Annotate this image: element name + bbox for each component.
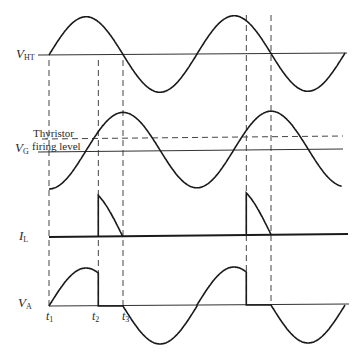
firing-level-label-1: Thyristor (33, 127, 74, 139)
il-pulse-1 (98, 195, 123, 237)
vg-label: VG (15, 140, 29, 156)
time-marker-lines (49, 15, 271, 310)
va-label: VA (18, 295, 32, 311)
il-pulse-2 (246, 193, 271, 235)
vht-label: VHT (16, 46, 35, 62)
il-baseline (49, 234, 348, 237)
t2-label: t2 (92, 309, 99, 324)
vht-baseline (38, 53, 347, 55)
t1-label: t1 (46, 309, 53, 324)
il-label: IL (18, 228, 28, 244)
firing-level-label-2: firing level (32, 140, 81, 152)
va-baseline (49, 304, 349, 306)
waveform-diagram: VHT Thyristor firing level VG IL VA t1 t… (0, 0, 364, 359)
vht-waveform (49, 16, 345, 93)
firing-level-line (42, 136, 343, 139)
vg-baseline (38, 149, 343, 152)
